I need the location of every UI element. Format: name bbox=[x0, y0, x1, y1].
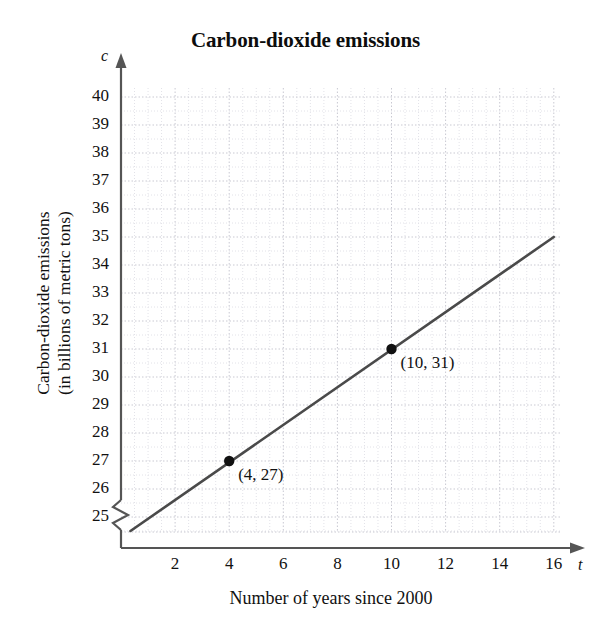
y-tick-label: 32 bbox=[77, 310, 109, 330]
x-tick-label: 6 bbox=[267, 554, 299, 574]
y-tick-label: 37 bbox=[77, 170, 109, 190]
y-tick-label: 38 bbox=[77, 142, 109, 162]
x-tick-label: 16 bbox=[538, 554, 570, 574]
y-tick-label: 27 bbox=[77, 450, 109, 470]
grid-major-lines bbox=[121, 88, 562, 532]
y-tick-label: 36 bbox=[77, 198, 109, 218]
grid-minor-lines bbox=[121, 88, 562, 532]
y-tick-label: 28 bbox=[77, 422, 109, 442]
y-tick-label: 26 bbox=[77, 478, 109, 498]
y-tick-label: 31 bbox=[77, 338, 109, 358]
y-tick-label: 39 bbox=[77, 114, 109, 134]
y-tick-label: 34 bbox=[77, 254, 109, 274]
x-tick-label: 4 bbox=[213, 554, 245, 574]
point-label: (4, 27) bbox=[238, 465, 283, 485]
chart-canvas: Carbon-dioxide emissions Carbon-dioxide … bbox=[0, 0, 611, 628]
y-tick-label: 33 bbox=[77, 282, 109, 302]
y-tick-label: 25 bbox=[77, 506, 109, 526]
x-tick-label: 14 bbox=[484, 554, 516, 574]
x-tick-label: 2 bbox=[159, 554, 191, 574]
y-tick-label: 40 bbox=[77, 86, 109, 106]
x-tick-label: 12 bbox=[430, 554, 462, 574]
y-tick-label: 29 bbox=[77, 394, 109, 414]
y-tick-label: 30 bbox=[77, 366, 109, 386]
point-label: (10, 31) bbox=[401, 353, 455, 373]
axis-lines bbox=[113, 53, 585, 554]
data-line bbox=[130, 237, 553, 531]
x-tick-label: 10 bbox=[376, 554, 408, 574]
y-tick-label: 35 bbox=[77, 226, 109, 246]
x-tick-label: 8 bbox=[321, 554, 353, 574]
